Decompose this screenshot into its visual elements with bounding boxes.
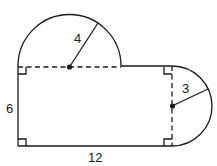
top-center-point	[67, 64, 72, 69]
top-semicircle-arc	[18, 15, 121, 66]
composite-figure-diagram: 4 3 6 12	[0, 0, 217, 166]
width-label: 12	[88, 151, 102, 164]
right-radius-line	[172, 89, 208, 106]
right-angle-mark-top-right	[164, 67, 172, 74]
right-angle-mark-top-left	[18, 67, 26, 74]
right-semicircle-arc	[172, 66, 212, 146]
right-center-point	[170, 103, 175, 108]
right-angle-mark-bottom-left	[18, 139, 26, 146]
top-radius-label: 4	[74, 32, 81, 45]
right-angle-mark-bottom-right	[164, 139, 172, 146]
height-label: 6	[6, 102, 13, 115]
right-radius-label: 3	[182, 82, 189, 95]
